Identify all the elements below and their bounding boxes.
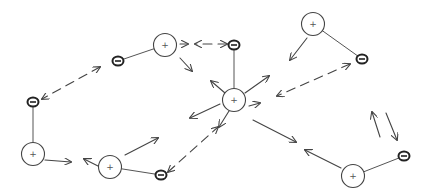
arrow-center-down-right-icon bbox=[253, 120, 296, 142]
center-dipole: + bbox=[223, 41, 246, 112]
arrow-center-right-icon bbox=[249, 103, 260, 106]
bottom-center-dipole: + bbox=[99, 156, 167, 180]
arrow-neg-right-up-icon bbox=[372, 112, 380, 137]
arrow-top-pos-down-right-icon bbox=[180, 58, 192, 71]
dipole-diagram: ++++++ bbox=[0, 0, 429, 195]
arrow-center-up-left-icon bbox=[211, 81, 225, 93]
positive-sign-label: + bbox=[349, 171, 357, 181]
positive-sign-label: + bbox=[230, 95, 238, 105]
arrow-bottomright-pos-left-icon bbox=[305, 150, 341, 168]
arrow-bottom-pos-left-icon bbox=[84, 159, 100, 167]
arrow-down-to-neg-right-icon bbox=[386, 113, 397, 140]
bottom-right-dipole: + bbox=[342, 152, 410, 188]
arrow-center-up-right-icon bbox=[245, 76, 269, 93]
arrow-center-left-icon bbox=[190, 104, 220, 118]
positive-sign-label: + bbox=[161, 40, 169, 50]
arrow-dashed-neg-to-center-bottom-icon bbox=[168, 127, 218, 172]
positive-sign-label: + bbox=[29, 149, 37, 159]
arrow-left-pos-right-icon bbox=[45, 160, 71, 162]
positive-sign-label: + bbox=[106, 162, 114, 172]
arrow-center-down-left-icon bbox=[219, 111, 229, 127]
left-dipole: + bbox=[22, 98, 45, 166]
dipoles-layer: ++++++ bbox=[22, 13, 410, 188]
arrow-dashed-neg-to-center-icon bbox=[277, 64, 350, 96]
arrow-bottom-pos-up-right-icon bbox=[125, 138, 158, 155]
top-left-dipole: + bbox=[113, 34, 177, 66]
positive-sign-label: + bbox=[309, 19, 317, 29]
arrow-topright-pos-down-left-icon bbox=[290, 38, 307, 60]
top-right-dipole: + bbox=[302, 13, 368, 64]
arrows-layer bbox=[42, 38, 397, 172]
arrow-neg-to-neg-left-1-icon bbox=[42, 67, 100, 99]
